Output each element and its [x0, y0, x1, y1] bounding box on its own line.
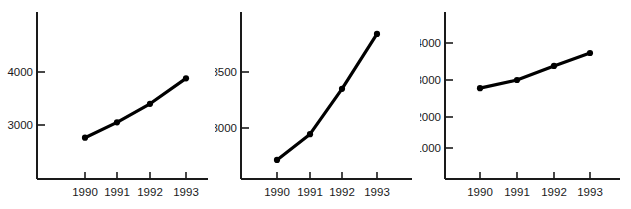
chart-svg-middle: 3500 3000 1990 1991 1992 1993: [215, 0, 425, 209]
data-point-1992: [339, 86, 345, 92]
x-tick-label-1993: 1993: [173, 186, 199, 198]
chart-svg-right: 4000 3000 2000 1000 1990 1991 1992 1993: [420, 0, 631, 209]
series-markers: [274, 31, 380, 163]
data-point-1993: [183, 75, 189, 81]
chart-svg-left: 4000 3000 1990 1991 1992 1993: [0, 0, 215, 209]
data-point-1993: [374, 31, 380, 37]
y-tick-label-3500: 3500: [215, 66, 237, 78]
series-line: [277, 34, 377, 160]
x-tick-label-1990: 1990: [72, 186, 98, 198]
x-tick-label-1990: 1990: [264, 186, 290, 198]
data-point-1993: [587, 50, 593, 56]
y-tick-label-4000: 4000: [420, 37, 441, 49]
chart-panel-middle: 3500 3000 1990 1991 1992 1993: [215, 0, 425, 209]
x-tick-label-1993: 1993: [577, 186, 603, 198]
chart-panel-left: 4000 3000 1990 1991 1992 1993: [0, 0, 215, 209]
data-point-1991: [307, 131, 313, 137]
x-tick-label-1992: 1992: [137, 186, 163, 198]
series-line: [480, 53, 590, 88]
data-point-1992: [551, 63, 557, 69]
data-point-1990: [274, 157, 280, 163]
x-tick-label-1993: 1993: [364, 186, 390, 198]
figure-canvas: 4000 3000 1990 1991 1992 1993 3500 3000: [0, 0, 631, 209]
data-point-1992: [147, 101, 153, 107]
y-tick-label-3000: 3000: [420, 74, 441, 86]
x-tick-label-1991: 1991: [104, 186, 130, 198]
y-tick-label-2000: 2000: [420, 111, 441, 123]
data-point-1990: [477, 85, 483, 91]
data-point-1990: [82, 135, 88, 141]
y-tick-label-3000: 3000: [215, 122, 237, 134]
data-point-1991: [514, 77, 520, 83]
y-tick-label-3000: 3000: [7, 119, 33, 131]
series-line: [85, 78, 186, 137]
x-tick-label-1991: 1991: [297, 186, 323, 198]
x-tick-label-1992: 1992: [329, 186, 355, 198]
y-tick-label-4000: 4000: [7, 66, 33, 78]
chart-panel-right: 4000 3000 2000 1000 1990 1991 1992 1993: [420, 0, 631, 209]
y-tick-label-1000: 1000: [420, 142, 441, 154]
x-tick-label-1990: 1990: [467, 186, 493, 198]
data-point-1991: [114, 119, 120, 125]
x-tick-label-1992: 1992: [541, 186, 567, 198]
x-tick-label-1991: 1991: [504, 186, 530, 198]
